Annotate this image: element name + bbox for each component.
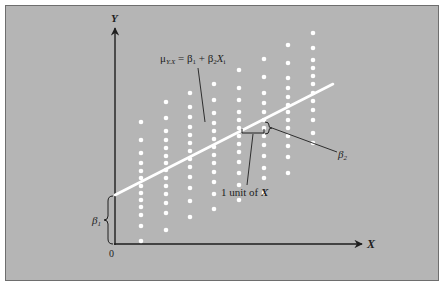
data-point	[164, 201, 169, 206]
data-point	[164, 176, 169, 181]
data-point	[139, 151, 144, 156]
equation-equals-beta: = β	[175, 52, 193, 64]
intercept-label: β1	[91, 214, 101, 228]
data-point	[237, 198, 242, 203]
slope-leader-line	[272, 128, 337, 152]
data-point	[139, 239, 144, 244]
data-point	[262, 101, 267, 106]
data-point	[237, 150, 242, 155]
data-point	[212, 98, 217, 103]
data-point	[212, 170, 217, 175]
data-point	[286, 118, 291, 123]
data-point	[311, 118, 316, 123]
data-point	[164, 161, 169, 166]
data-point	[212, 111, 217, 116]
data-point	[188, 149, 193, 154]
data-point	[164, 138, 169, 143]
regression-line	[115, 84, 333, 195]
data-point	[164, 228, 169, 233]
data-point	[237, 134, 242, 139]
unit-label-prefix: 1 unit of	[221, 186, 261, 198]
data-point	[286, 171, 291, 176]
data-point	[212, 121, 217, 126]
data-point	[188, 199, 193, 204]
data-point	[286, 110, 291, 115]
unit-label: 1 unit of X	[221, 186, 269, 198]
y-axis-label: Y	[111, 12, 119, 24]
unit-leader-line	[247, 134, 253, 185]
data-point	[237, 171, 242, 176]
data-point	[311, 46, 316, 51]
data-point	[286, 155, 291, 160]
data-point	[262, 143, 267, 148]
data-point	[262, 75, 267, 80]
data-point	[139, 205, 144, 210]
data-point	[188, 215, 193, 220]
data-point	[188, 105, 193, 110]
data-point	[311, 82, 316, 87]
intercept-brace	[104, 196, 113, 244]
slope-label: β2	[337, 148, 347, 162]
data-point	[262, 166, 267, 171]
data-point	[286, 126, 291, 131]
data-point	[212, 153, 217, 158]
data-point	[212, 82, 217, 87]
data-point	[188, 91, 193, 96]
data-point	[188, 165, 193, 170]
data-point	[311, 58, 316, 63]
equation-label: μY.X = β1 + β2Xi	[160, 52, 226, 66]
data-point	[139, 120, 144, 125]
data-point	[237, 142, 242, 147]
data-point	[262, 57, 267, 62]
data-point	[188, 133, 193, 138]
data-point	[237, 118, 242, 123]
regression-diagram: Y X 0 μY.X = β1 + β2Xi β1 β2 1 unit of X	[0, 0, 442, 289]
data-point	[212, 180, 217, 185]
data-point	[139, 198, 144, 203]
data-point	[139, 213, 144, 218]
data-point	[164, 116, 169, 121]
slope-subscript: 2	[343, 154, 347, 162]
data-point	[311, 66, 316, 71]
data-point	[164, 154, 169, 159]
data-point	[164, 146, 169, 151]
data-point	[212, 129, 217, 134]
data-point	[262, 176, 267, 181]
data-point	[139, 169, 144, 174]
data-point	[139, 161, 144, 166]
data-point	[188, 186, 193, 191]
data-point	[286, 43, 291, 48]
data-point	[212, 192, 217, 197]
data-point	[139, 224, 144, 229]
data-point	[212, 161, 217, 166]
x-axis-label: X	[366, 237, 376, 251]
data-point	[286, 95, 291, 100]
data-point	[311, 131, 316, 136]
data-point	[286, 61, 291, 66]
data-point	[286, 76, 291, 81]
data-point	[262, 91, 267, 96]
equation-x-subscript: i	[224, 58, 226, 66]
data-point	[237, 68, 242, 73]
data-point	[139, 191, 144, 196]
data-point	[212, 207, 217, 212]
data-point	[188, 115, 193, 120]
data-point	[164, 100, 169, 105]
intercept-subscript: 1	[97, 220, 101, 228]
data-point	[188, 175, 193, 180]
data-point	[164, 192, 169, 197]
data-point	[237, 160, 242, 165]
data-point	[164, 211, 169, 216]
data-point	[139, 184, 144, 189]
data-point	[188, 125, 193, 130]
data-point	[286, 86, 291, 91]
data-point	[164, 184, 169, 189]
data-point	[262, 110, 267, 115]
data-point	[139, 138, 144, 143]
data-point	[311, 99, 316, 104]
equation-plus-beta: + β	[196, 52, 214, 64]
data-point	[188, 141, 193, 146]
data-point	[311, 74, 316, 79]
data-point	[237, 86, 242, 91]
data-point	[212, 137, 217, 142]
